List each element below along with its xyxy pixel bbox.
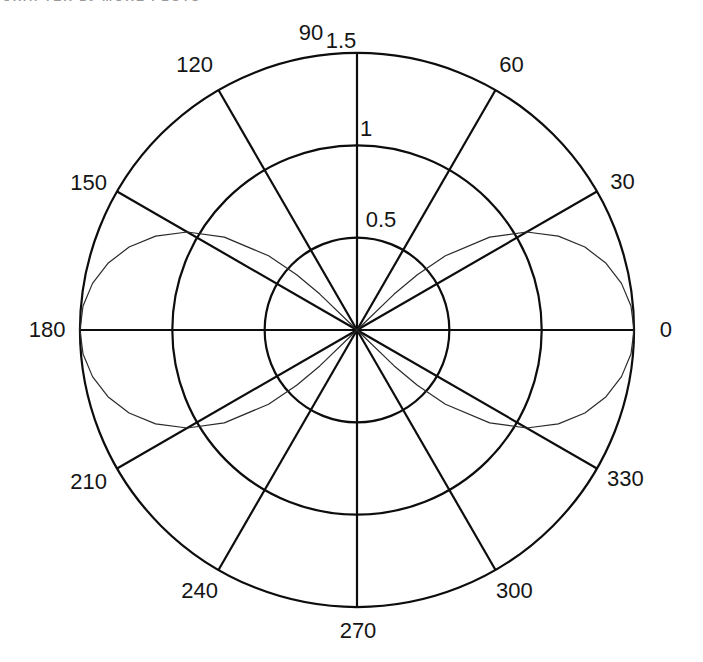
radius-label-1: 1 [360,118,372,140]
angle-label-300: 300 [496,580,533,602]
angle-label-30: 30 [610,171,634,193]
polar-plot-svg [0,0,703,662]
radius-label-0.5: 0.5 [366,209,397,231]
radius-label-1.5: 1.5 [326,30,357,52]
angle-label-240: 240 [181,580,218,602]
angle-label-120: 120 [176,54,213,76]
grid-spoke-330 [357,330,597,469]
angle-label-270: 270 [340,620,377,642]
grid-spoke-120 [218,90,357,330]
grid-spoke-210 [117,330,357,469]
angle-label-330: 330 [607,468,644,490]
angle-label-0: 0 [660,319,672,341]
angle-label-60: 60 [499,54,523,76]
angle-label-210: 210 [70,471,107,493]
angle-label-150: 150 [70,172,107,194]
scanned-page: CHAPTER 10 MORE PLOTS 0 30 60 90 120 150… [0,0,703,662]
grid-spoke-150 [117,191,357,330]
grid-spoke-300 [357,330,496,570]
angle-label-90: 90 [299,22,323,44]
grid-spoke-240 [218,330,357,570]
angle-label-180: 180 [29,319,66,341]
